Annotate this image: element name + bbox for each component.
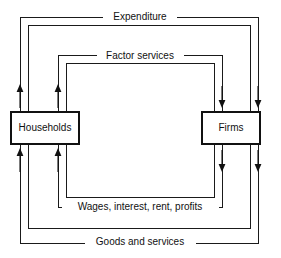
arrow-left-inner-lower [55,148,62,172]
arrow-right-outer-lower [255,150,262,172]
arrow-head-down-icon [219,100,226,108]
agent-households[interactable]: Households [11,112,79,144]
flow-label-text: Expenditure [113,11,167,22]
loop-path-inner-4 [66,63,214,197]
arrow-head-down-icon [255,100,262,108]
arrow-head-up-icon [55,84,62,92]
households-label: Households [19,122,72,133]
flow-label-text: Wages, interest, rent, profits [78,201,203,212]
arrow-right-inner-upper [219,86,226,108]
arrow-head-up-icon [55,148,62,156]
arrow-head-up-icon [17,84,24,92]
loop-path-3 [58,55,222,207]
arrow-head-down-icon [255,164,262,172]
arrow-left-outer-upper [17,84,24,108]
flow-label-factor-services: Factor services [97,49,184,62]
arrow-right-inner-lower [219,150,226,172]
arrow-head-up-icon [17,148,24,156]
arrow-left-outer-lower [17,148,24,172]
flow-label-wages-interest-rent-profits: Wages, interest, rent, profits [62,200,219,214]
circular-flow-diagram: Expenditure Factor services Wages, inter… [0,0,281,258]
flow-label-expenditure: Expenditure [103,10,177,24]
flow-canvas: Expenditure Factor services Wages, inter… [0,0,281,258]
agent-firms[interactable]: Firms [202,112,260,144]
arrow-left-inner-upper [55,84,62,108]
flow-label-text: Factor services [106,50,174,61]
arrow-head-down-icon [219,164,226,172]
flow-label-text: Goods and services [96,236,184,247]
firms-label: Firms [219,122,244,133]
flow-label-goods-and-services: Goods and services [85,235,196,249]
arrow-right-outer-upper [255,86,262,108]
